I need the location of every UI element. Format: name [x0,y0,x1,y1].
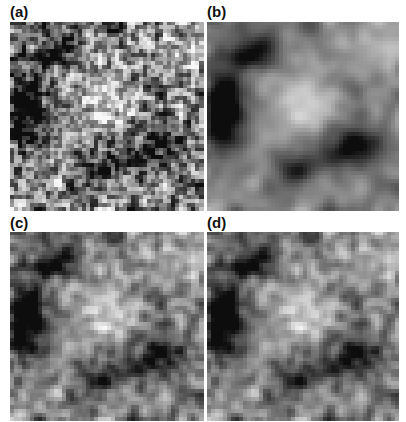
panel-label-d: (d) [207,215,226,230]
panel-label-b: (b) [207,4,226,19]
panel-label-a: (a) [10,4,28,19]
noise-image-c [10,232,204,421]
noise-image-a [10,22,204,211]
panel-label-c: (c) [10,215,28,230]
noise-image-d [207,232,399,421]
noise-image-b [207,22,399,211]
